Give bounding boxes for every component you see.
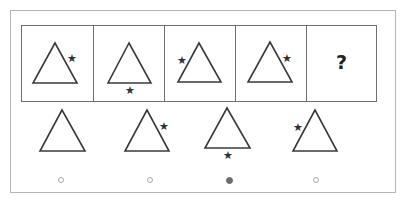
star-icon: ★ — [159, 121, 169, 132]
star-icon: ★ — [223, 150, 233, 161]
sequence-cell-4: ★ — [236, 26, 307, 101]
triangle-icon — [275, 103, 355, 173]
sequence-cell-2: ★ — [94, 26, 165, 101]
star-icon: ★ — [67, 53, 77, 64]
star-icon: ★ — [293, 122, 303, 133]
triangle-icon — [22, 26, 94, 101]
triangle-icon — [107, 103, 187, 173]
triangle-icon — [165, 26, 236, 101]
option-a[interactable] — [22, 103, 102, 189]
sequence-cell-1: ★ — [22, 26, 94, 101]
option-c-radio[interactable] — [226, 177, 233, 184]
option-a-radio[interactable] — [58, 177, 64, 183]
option-c[interactable]: ★ — [187, 103, 267, 189]
triangle-icon — [22, 103, 102, 173]
sequence-cell-answer: ? — [307, 26, 376, 101]
sequence-row: ★ ★ ★ ★ ? — [21, 25, 377, 102]
option-d-radio[interactable] — [313, 177, 319, 183]
star-icon: ★ — [282, 53, 292, 64]
question-mark: ? — [307, 50, 376, 74]
option-b-radio[interactable] — [147, 177, 153, 183]
option-d[interactable]: ★ — [275, 103, 355, 189]
star-icon: ★ — [177, 55, 187, 66]
star-icon: ★ — [125, 85, 135, 96]
sequence-cell-3: ★ — [165, 26, 236, 101]
triangle-icon — [236, 26, 307, 101]
triangle-icon — [187, 103, 267, 173]
option-b[interactable]: ★ — [107, 103, 187, 189]
